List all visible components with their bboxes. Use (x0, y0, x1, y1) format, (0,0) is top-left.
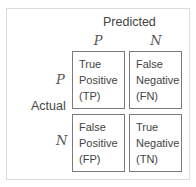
cell-line: Negative (136, 72, 181, 88)
cell-line: True (136, 119, 181, 135)
cell-line: False (136, 56, 181, 72)
actual-axis-title: Actual (31, 99, 66, 113)
cell-line: True (79, 56, 124, 72)
row-header-n: N (56, 133, 67, 148)
cell-line: False (79, 119, 124, 135)
cell-line: (FP) (79, 151, 124, 167)
cell-line: (FN) (136, 88, 181, 104)
cell-true-negative: True Negative (TN) (129, 114, 182, 172)
column-header-n: N (130, 33, 182, 48)
cell-true-positive: True Positive (TP) (72, 51, 125, 109)
cell-line: (TP) (79, 88, 124, 104)
cell-false-positive: False Positive (FP) (72, 114, 125, 172)
cell-false-negative: False Negative (FN) (129, 51, 182, 109)
cell-line: Positive (79, 72, 124, 88)
cell-line: Negative (136, 135, 181, 151)
cell-line: (TN) (136, 151, 181, 167)
predicted-label: Predicted (103, 15, 156, 29)
column-header-p: P (72, 33, 124, 48)
cell-line: Positive (79, 135, 124, 151)
row-header-p: P (56, 72, 65, 87)
